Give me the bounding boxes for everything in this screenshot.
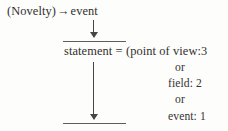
alternative-field-text: field: 2 bbox=[168, 78, 202, 90]
right-arrow-icon: → bbox=[56, 4, 71, 18]
alternative-point-of-view-text: point of view:3 bbox=[130, 44, 207, 58]
statement-line: statement = (point of view:3 bbox=[64, 45, 207, 57]
arrow-head bbox=[90, 32, 98, 38]
novelty-target-text: event bbox=[71, 4, 98, 18]
arrow-head bbox=[90, 114, 98, 120]
rule-bottom-blank bbox=[63, 123, 126, 124]
novelty-source-text: (Novelty) bbox=[7, 4, 56, 18]
alternative-event-text: event: 1 bbox=[168, 111, 206, 123]
down-arrow-icon-statement-to-blank bbox=[89, 62, 98, 119]
alternative-connector-or-1: or bbox=[175, 62, 185, 74]
rule-above-statement bbox=[63, 41, 126, 42]
derivation-diagram: (Novelty)→event statement = (point of vi… bbox=[0, 0, 228, 131]
alternative-connector-or-2: or bbox=[175, 94, 185, 106]
statement-label-text: statement bbox=[64, 44, 112, 58]
down-arrow-icon-novelty-to-statement bbox=[89, 20, 98, 37]
equals-sign: = bbox=[116, 44, 123, 58]
novelty-event-line: (Novelty)→event bbox=[7, 5, 98, 17]
arrow-shaft bbox=[93, 62, 94, 119]
